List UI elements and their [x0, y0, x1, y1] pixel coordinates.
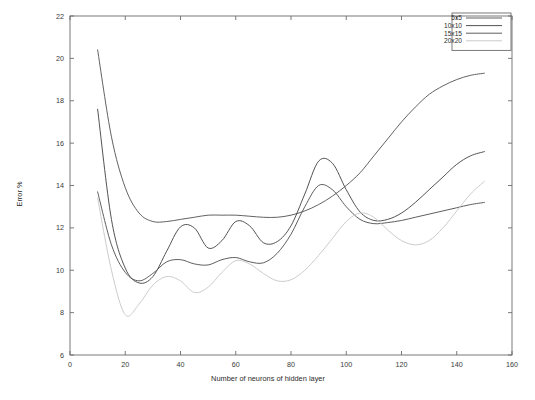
y-tick-label: 8: [60, 308, 64, 317]
chart-container: 020406080100120140160 6810121416182022 5…: [0, 0, 535, 400]
x-tick-label: 140: [451, 360, 463, 369]
series-line-5x5: [98, 50, 485, 222]
x-tick-label: 120: [396, 360, 408, 369]
y-tick-label: 6: [60, 351, 64, 360]
y-tick-label: 12: [56, 223, 64, 232]
x-tick-label: 100: [340, 360, 352, 369]
x-tick-label: 160: [506, 360, 518, 369]
chart-legend: 5x510x1015x1520x20: [444, 13, 511, 50]
x-tick-label: 60: [232, 360, 240, 369]
y-tick-label: 18: [56, 96, 64, 105]
y-tick-label: 10: [56, 266, 64, 275]
line-chart: 020406080100120140160 6810121416182022 5…: [0, 0, 535, 400]
series-line-15x15: [98, 184, 485, 280]
legend-label-20x20: 20x20: [444, 37, 462, 44]
legend-label-5x5: 5x5: [451, 14, 462, 21]
y-tick-label: 14: [56, 181, 64, 190]
plot-border: [70, 16, 512, 355]
series-lines: [98, 50, 485, 316]
y-tick-label: 16: [56, 139, 64, 148]
legend-label-10x10: 10x10: [444, 22, 462, 29]
x-axis-ticks: 020406080100120140160: [68, 16, 518, 369]
legend-label-15x15: 15x15: [444, 30, 462, 37]
y-tick-label: 22: [56, 12, 64, 21]
y-axis-title: Error %: [15, 181, 24, 206]
series-line-20x20: [98, 181, 485, 316]
plot-frame: [70, 16, 512, 355]
series-line-10x10: [98, 109, 485, 283]
x-tick-label: 80: [287, 360, 295, 369]
x-axis-title: Number of neurons of hidden layer: [211, 374, 325, 383]
x-tick-label: 20: [121, 360, 129, 369]
x-tick-label: 0: [68, 360, 72, 369]
y-tick-label: 20: [56, 54, 64, 63]
x-tick-label: 40: [177, 360, 185, 369]
